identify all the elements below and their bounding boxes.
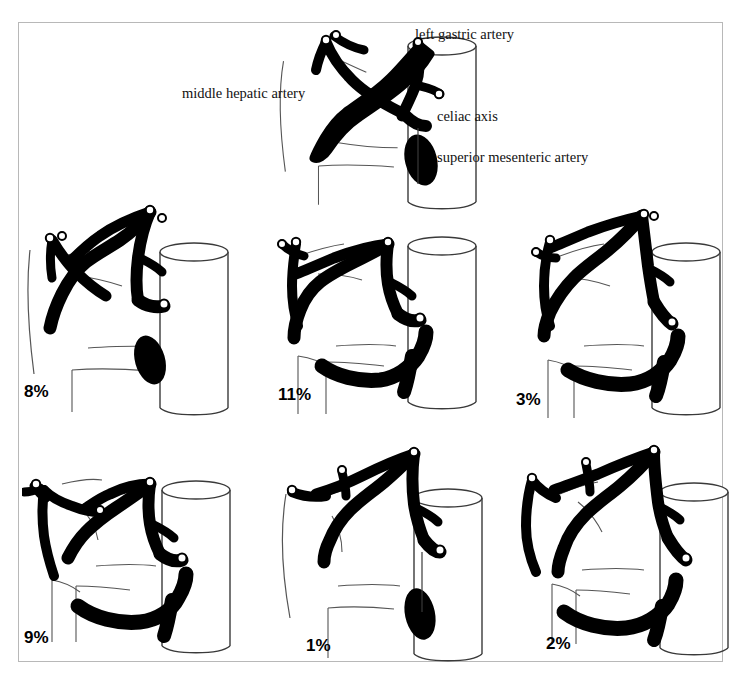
aorta-cylinder [160,243,228,415]
label-middle-hepatic-artery: middle hepatic artery [182,85,305,102]
arterial-tree [46,206,172,388]
panel-variant-2 [502,440,732,672]
arterial-tree [532,210,678,396]
label-superior-mesenteric-artery: superior mesenteric artery [437,149,588,166]
percent-label-1: 1% [306,636,331,656]
percent-label-2: 2% [546,634,571,654]
arterial-tree [288,448,445,643]
percent-label-11: 11% [278,385,311,405]
panel-variant-9 [22,440,252,672]
organ-contours [548,244,644,418]
percent-label-8: 8% [24,382,49,402]
panel-variant-1 [262,440,492,672]
label-left-gastric-artery: left gastric artery [415,26,514,43]
panel-variant-8 [22,196,252,428]
label-celiac-axis: celiac axis [437,108,498,125]
arterial-tree [526,446,691,640]
arterial-tree [278,238,426,392]
percent-label-3: 3% [516,390,541,410]
percent-label-9: 9% [24,628,49,648]
